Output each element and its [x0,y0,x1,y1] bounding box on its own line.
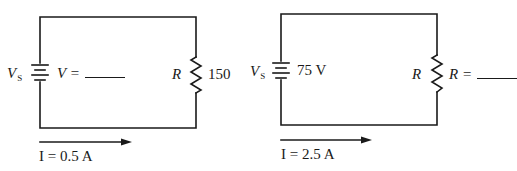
voltage-label: V = [57,65,80,81]
right-source-value: 75 V [297,63,326,78]
source-symbol: V [250,63,259,79]
left-current-label: I = 0.5 A [39,149,92,164]
left-resistor-value: 150 [208,67,231,82]
right-resistor-symbol: R [412,67,421,82]
current-value: I = 0.5 A [39,148,92,164]
resistor-icon [191,57,201,93]
right-current-label: I = 2.5 A [281,147,334,162]
battery-icon [273,63,289,78]
left-source-value: V = [57,66,125,81]
left-resistor-symbol: R [172,67,181,82]
right-resistor-value: R = [449,67,517,82]
source-symbol: V [7,65,16,81]
resistor-icon [432,55,442,92]
current-arrow-icon [281,137,372,144]
left-source-label: VS [7,66,22,83]
source-subscript: S [260,71,265,81]
right-source-label: VS [250,64,265,81]
current-arrow-icon [40,139,132,146]
current-value: I = 2.5 A [281,146,334,162]
voltage-answer-blank[interactable] [85,77,125,78]
resistance-label: R = [449,66,472,82]
resistance-answer-blank[interactable] [477,78,517,79]
source-subscript: S [17,73,22,83]
battery-icon [32,65,48,80]
